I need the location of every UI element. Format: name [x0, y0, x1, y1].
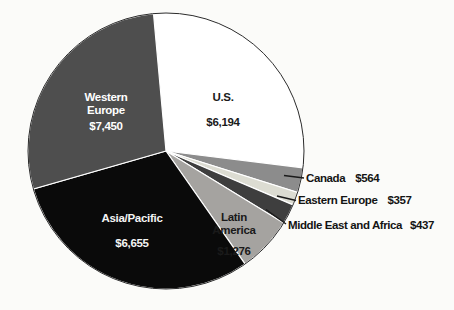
slice-name: Western Europe	[71, 91, 141, 117]
slice-name: Canada	[306, 172, 345, 185]
pie-chart	[0, 0, 454, 310]
slice-name: Latin America	[205, 211, 263, 237]
slice-name: Eastern Europe	[298, 194, 377, 207]
label-middle-east-and-africa: Middle East and Africa $437	[288, 219, 434, 232]
label-western-europe: Western Europe $7,450	[71, 91, 141, 133]
label-asia-pacific: Asia/Pacific $6,655	[87, 212, 177, 250]
slice-name: Middle East and Africa	[288, 219, 402, 232]
slice-value: $1,276	[205, 245, 263, 258]
slice-name: Asia/Pacific	[87, 212, 177, 225]
slice-value: $564	[355, 172, 379, 185]
slice-value: $357	[387, 194, 411, 207]
slice-name: U.S.	[188, 91, 258, 104]
pie-chart-figure: Western Europe $7,450 U.S. $6,194 Asia/P…	[0, 0, 454, 310]
label-eastern-europe: Eastern Europe $357	[298, 194, 411, 207]
slice-value: $6,655	[87, 237, 177, 250]
slice-value: $7,450	[71, 120, 141, 133]
label-canada: Canada $564	[306, 172, 379, 185]
label-us: U.S. $6,194	[188, 91, 258, 129]
slice-value: $6,194	[188, 116, 258, 129]
label-latin-america: Latin America $1,276	[205, 211, 263, 258]
slice-value: $437	[410, 219, 434, 232]
